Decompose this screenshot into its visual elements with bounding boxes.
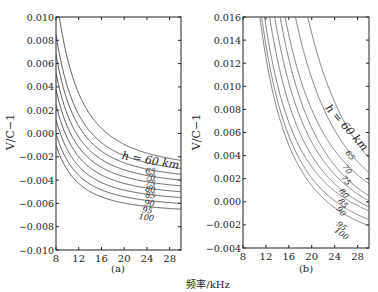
y-tick-label: −0.004 bbox=[19, 175, 54, 186]
panel-label-a: (a) bbox=[111, 263, 125, 274]
y-tick-label: −0.004 bbox=[206, 243, 241, 254]
plot-frame-a bbox=[56, 17, 181, 250]
curve-label: 65 bbox=[343, 149, 356, 163]
y-axis-label-b: V/C−1 bbox=[190, 114, 203, 151]
y-tick-label: 0.008 bbox=[27, 35, 54, 46]
y-tick-label: −0.002 bbox=[19, 151, 54, 162]
curve-h-100 bbox=[56, 145, 181, 209]
x-tick-label: 28 bbox=[351, 251, 364, 262]
x-tick-label: 12 bbox=[260, 251, 273, 262]
y-tick-label: −0.008 bbox=[19, 221, 54, 232]
y-tick-label: 0.010 bbox=[27, 12, 54, 23]
y-tick-label: 0.010 bbox=[214, 81, 241, 92]
curve-h-65 bbox=[56, 35, 181, 169]
y-tick-label: 0.014 bbox=[214, 35, 241, 46]
y-tick-label: 0.004 bbox=[214, 150, 241, 161]
y-tick-label: 0.002 bbox=[214, 173, 241, 184]
curve-label: 75 bbox=[339, 174, 352, 188]
y-axis-label-a: V/C−1 bbox=[4, 114, 17, 151]
y-tick-label: 0.016 bbox=[214, 12, 241, 23]
curve-h-60 bbox=[56, 0, 181, 160]
y-tick-label: 0.000 bbox=[214, 196, 241, 207]
curve-h-85 bbox=[56, 104, 181, 191]
curve-h-100 bbox=[243, 0, 369, 226]
y-tick-label: −0.006 bbox=[19, 198, 54, 209]
x-tick-label: 24 bbox=[141, 253, 154, 264]
y-tick-label: 0.012 bbox=[214, 58, 241, 69]
figure: 81216202428−0.010−0.008−0.006−0.004−0.00… bbox=[0, 0, 378, 292]
x-tick-label: 16 bbox=[282, 251, 295, 262]
y-tick-label: 0.004 bbox=[27, 81, 54, 92]
y-tick-label: 0.006 bbox=[214, 127, 241, 138]
y-tick-label: −0.002 bbox=[206, 219, 241, 230]
x-tick-label: 16 bbox=[95, 253, 108, 264]
curve-label: 100 bbox=[333, 226, 351, 242]
curve-label: 100 bbox=[138, 212, 154, 223]
x-tick-label: 20 bbox=[305, 251, 318, 262]
x-tick-label: 28 bbox=[163, 253, 176, 264]
y-tick-label: 0.008 bbox=[214, 104, 241, 115]
y-tick-label: 0.000 bbox=[27, 128, 54, 139]
panel-b-chart: 81216202428−0.004−0.0020.0000.0020.0040.… bbox=[206, 0, 371, 262]
y-tick-label: 0.002 bbox=[27, 105, 54, 116]
x-tick-label: 24 bbox=[328, 251, 341, 262]
y-tick-label: −0.010 bbox=[19, 245, 54, 256]
y-tick-label: 0.006 bbox=[27, 58, 54, 69]
curve-h-65 bbox=[243, 0, 369, 173]
panel-label-b: (b) bbox=[299, 263, 313, 274]
x-axis-label: 频率/kHz bbox=[186, 278, 229, 290]
curve-label: h = 60 km bbox=[322, 102, 370, 154]
panel-a-chart: 81216202428−0.010−0.008−0.006−0.004−0.00… bbox=[19, 0, 181, 264]
x-tick-label: 12 bbox=[72, 253, 85, 264]
